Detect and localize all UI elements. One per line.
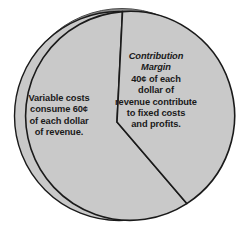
variable-costs-line-2: consume 60¢ (11, 104, 107, 115)
contribution-margin-line-4: to fixed costs (106, 108, 206, 119)
contribution-margin-title-2: Margin (106, 62, 206, 73)
variable-costs-line-4: of revenue. (11, 127, 107, 138)
contribution-margin-title-1: Contribution (106, 51, 206, 62)
pie-chart-figure: Variable costs consume 60¢ of each dolla… (0, 0, 238, 237)
variable-costs-line-1: Variable costs (11, 93, 107, 104)
variable-costs-line-3: of each dollar (11, 116, 107, 127)
contribution-margin-line-5: and profits. (106, 119, 206, 130)
contribution-margin-line-2: dollar of (106, 85, 206, 96)
variable-costs-label: Variable costs consume 60¢ of each dolla… (11, 93, 107, 139)
contribution-margin-line-3: revenue contribute (106, 97, 206, 108)
contribution-margin-line-1: 40¢ of each (106, 74, 206, 85)
contribution-margin-label: Contribution Margin 40¢ of each dollar o… (106, 51, 206, 131)
